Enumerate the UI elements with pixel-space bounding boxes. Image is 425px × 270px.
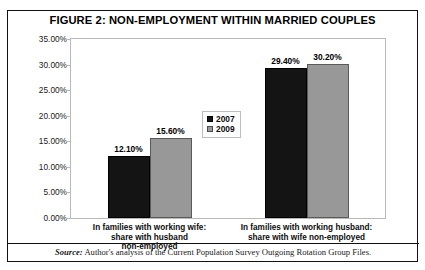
figure-title: FIGURE 2: NON-EMPLOYMENT WITHIN MARRIED … <box>8 14 417 26</box>
x-axis-label-line: In families with working wife: <box>64 223 236 233</box>
y-axis-tick-mark <box>66 90 70 91</box>
legend-swatch-2007 <box>207 116 213 122</box>
legend-item-2009: 2009 <box>207 124 235 134</box>
y-axis-tick-label: 25.00% <box>7 85 67 95</box>
y-axis-tick-label: 30.00% <box>7 60 67 70</box>
bar-2009-group-1 <box>150 138 192 218</box>
bar-value-label: 12.10% <box>102 144 156 154</box>
y-axis-tick-mark <box>66 39 70 40</box>
figure-frame: FIGURE 2: NON-EMPLOYMENT WITHIN MARRIED … <box>7 10 418 262</box>
bar-2007-group-1 <box>108 156 150 218</box>
y-axis-tick-label: 5.00% <box>7 187 67 197</box>
legend-item-2007: 2007 <box>207 114 235 124</box>
y-axis-tick-mark <box>66 192 70 193</box>
source-note: Source: Author's analysis of the Current… <box>55 247 371 257</box>
y-axis-tick-label: 20.00% <box>7 111 67 121</box>
y-axis-tick-label: 10.00% <box>7 162 67 172</box>
y-axis-tick-label: 15.00% <box>7 136 67 146</box>
legend-label-2009: 2009 <box>216 124 235 134</box>
y-axis-tick-mark <box>66 65 70 66</box>
y-axis-tick-label: 0.00% <box>7 213 67 223</box>
x-axis-label-line: share with wife non-employed <box>221 233 393 243</box>
y-axis-tick-mark <box>66 141 70 142</box>
legend-label-2007: 2007 <box>216 114 235 124</box>
y-axis-tick-mark <box>66 218 70 219</box>
legend-swatch-2009 <box>207 126 213 132</box>
bar-2009-group-2 <box>307 64 349 218</box>
x-axis-label-line: share with husband <box>64 233 236 243</box>
bar-2007-group-2 <box>265 68 307 218</box>
y-axis-tick-mark <box>66 116 70 117</box>
x-axis-label-group-2: In families with working husband:share w… <box>221 223 393 242</box>
y-axis-tick-mark <box>66 167 70 168</box>
y-axis-tick-label: 35.00% <box>7 34 67 44</box>
x-axis-label-line: In families with working husband: <box>221 223 393 233</box>
chart-legend: 2007 2009 <box>202 111 241 138</box>
bar-value-label: 15.60% <box>144 126 198 136</box>
source-divider <box>8 243 419 244</box>
bar-value-label: 30.20% <box>301 52 355 62</box>
source-text: Author's analysis of the Current Populat… <box>83 247 371 257</box>
chart-area: 0.00%5.00%10.00%15.00%20.00%25.00%30.00%… <box>8 30 419 243</box>
source-keyword: Source: <box>55 247 83 257</box>
